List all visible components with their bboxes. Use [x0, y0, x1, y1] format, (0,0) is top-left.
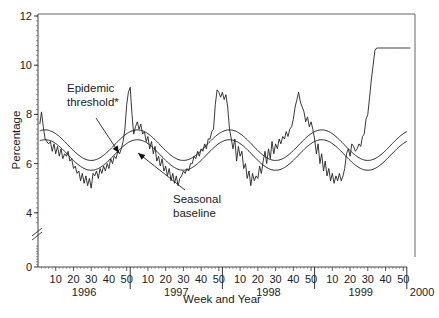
chart: 04681012 1020304050199610203040501997102… [0, 0, 439, 318]
x-tick-label: 40 [195, 273, 207, 285]
x-tick-label: 50 [305, 273, 317, 285]
y-tick-label: 0 [26, 261, 32, 273]
x-tick-label: 40 [103, 273, 115, 285]
y-tick-label: 10 [20, 59, 32, 71]
y-tick-label: 6 [26, 158, 32, 170]
x-tick-label: 20 [67, 273, 79, 285]
year-label: 1999 [348, 286, 372, 298]
axis-break-mark [32, 232, 42, 240]
x-tick-label: 50 [121, 273, 133, 285]
x-tick-label: 30 [85, 273, 97, 285]
x-tick-label: 20 [160, 273, 172, 285]
x-tick-label: 20 [344, 273, 356, 285]
epidemic-threshold-annotation: Epidemic [67, 82, 115, 94]
y-tick-label: 4 [26, 207, 32, 219]
axis-break-mark [32, 228, 42, 236]
annotations: Epidemicthreshold*Seasonalbaseline [67, 82, 221, 219]
x-axis-title: Week and Year [183, 293, 261, 305]
y-tick-label: 12 [20, 10, 32, 22]
x-tick-label: 50 [397, 273, 409, 285]
seasonal-baseline-arrow-head [138, 153, 145, 160]
seasonal-baseline-annotation: Seasonal [173, 193, 221, 205]
seasonal-baseline-annotation: baseline [173, 207, 216, 219]
x-tick-label: 30 [269, 273, 281, 285]
x-tick-label: 30 [362, 273, 374, 285]
epidemic-threshold-annotation: threshold* [67, 96, 119, 108]
year-label: 2000 [410, 286, 434, 298]
x-tick-label: 10 [142, 273, 154, 285]
x-tick-label: 10 [234, 273, 246, 285]
x-tick-label: 10 [326, 273, 338, 285]
x-tick-label: 30 [177, 273, 189, 285]
y-axis-title: Percentage [10, 111, 22, 170]
x-tick-label: 40 [379, 273, 391, 285]
y-axis: 04681012 [20, 10, 42, 273]
x-tick-label: 50 [213, 273, 225, 285]
x-tick-label: 10 [50, 273, 62, 285]
epidemic-threshold-arrow-head [113, 146, 119, 153]
series-lines [40, 48, 411, 188]
x-tick-label: 20 [252, 273, 264, 285]
seasonal-baseline-arrow [138, 153, 185, 190]
observed-series-line [40, 48, 411, 188]
x-tick-label: 40 [287, 273, 299, 285]
year-label: 1996 [72, 286, 96, 298]
y-tick-label: 8 [26, 108, 32, 120]
